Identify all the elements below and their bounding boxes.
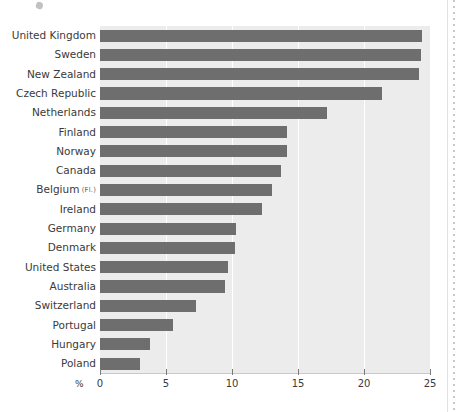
category-label: Finland <box>58 123 96 142</box>
bar <box>100 107 327 119</box>
category-label: Hungary <box>51 335 96 354</box>
category-label: Portugal <box>53 316 97 335</box>
bar <box>100 300 196 312</box>
x-axis-tick-label: 5 <box>163 378 169 389</box>
bar <box>100 319 173 331</box>
bar-row <box>100 335 430 354</box>
x-axis-tick <box>364 369 365 375</box>
bar <box>100 30 422 42</box>
x-axis-tick <box>166 369 167 375</box>
bar <box>100 358 140 370</box>
category-label: United States <box>25 258 96 277</box>
bar-row <box>100 238 430 257</box>
category-label: Ireland <box>60 200 96 219</box>
bar-row <box>100 180 430 199</box>
category-label: Australia <box>50 277 96 296</box>
bar <box>100 68 419 80</box>
bar <box>100 242 235 254</box>
bar <box>100 126 287 138</box>
bar <box>100 49 421 61</box>
x-axis-tick-label: 10 <box>226 378 239 389</box>
category-label-note: (Fl.) <box>79 186 96 194</box>
bar <box>100 338 150 350</box>
bar <box>100 184 272 196</box>
bar-row <box>100 219 430 238</box>
bar <box>100 203 262 215</box>
category-label: Belgium (Fl.) <box>36 180 96 199</box>
x-axis-tick-label: 20 <box>358 378 371 389</box>
x-axis-line <box>100 373 430 374</box>
bar-row <box>100 142 430 161</box>
bar-row <box>100 277 430 296</box>
x-axis-tick-label: 25 <box>424 378 437 389</box>
bar-row <box>100 123 430 142</box>
category-label: Norway <box>56 142 96 161</box>
x-axis-tick <box>430 369 431 375</box>
category-label: Canada <box>56 161 96 180</box>
category-label: Netherlands <box>32 103 96 122</box>
x-axis-unit-label: % <box>75 379 84 389</box>
bar-row <box>100 65 430 84</box>
category-label: United Kingdom <box>12 26 96 45</box>
x-axis-tick <box>232 369 233 375</box>
bar-row <box>100 258 430 277</box>
category-label: Czech Republic <box>16 84 96 103</box>
bar <box>100 261 228 273</box>
bar-row <box>100 84 430 103</box>
bar-row <box>100 161 430 180</box>
bar <box>100 145 287 157</box>
bar <box>100 280 225 292</box>
category-label: Poland <box>61 354 96 373</box>
bar-row <box>100 200 430 219</box>
x-axis-tick <box>100 369 101 375</box>
bar <box>100 223 236 235</box>
x-axis-tick-label: 15 <box>292 378 305 389</box>
bar-row <box>100 296 430 315</box>
bar-row <box>100 45 430 64</box>
gridline <box>430 26 431 373</box>
bar <box>100 87 382 99</box>
x-axis-tick <box>298 369 299 375</box>
category-label: Germany <box>48 219 96 238</box>
bar <box>100 165 281 177</box>
x-axis-tick-label: 0 <box>97 378 103 389</box>
bar-row <box>100 354 430 373</box>
bar-row <box>100 26 430 45</box>
category-label: Sweden <box>55 45 97 64</box>
category-label: New Zealand <box>27 65 96 84</box>
horizontal-bar-chart: United KingdomSwedenNew ZealandCzech Rep… <box>0 0 460 412</box>
category-label: Switzerland <box>35 296 96 315</box>
bar-row <box>100 103 430 122</box>
plot-area <box>100 26 430 373</box>
bar-row <box>100 316 430 335</box>
category-label: Denmark <box>48 238 96 257</box>
